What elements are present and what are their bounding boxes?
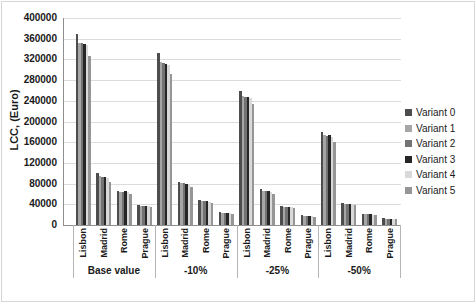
- legend-swatch-variant-1: [405, 125, 412, 132]
- group-label: -50%: [319, 264, 399, 277]
- y-tick-label: 200000: [2, 116, 57, 128]
- legend-item: Variant 5: [405, 183, 455, 199]
- legend-item: Variant 4: [405, 167, 455, 183]
- bar-variant-5-madrid--50%: [354, 205, 357, 225]
- bar-variant-5-rome--10%: [211, 203, 214, 225]
- bar-variant-5-prague--50%: [395, 219, 398, 225]
- gridline: [63, 101, 401, 102]
- gridline: [63, 163, 401, 164]
- x-axis-line: [63, 225, 401, 226]
- gridline: [63, 18, 401, 19]
- bar-variant-5-lisbon-base-value: [88, 56, 91, 225]
- legend-label: Variant 4: [416, 169, 455, 180]
- legend-swatch-variant-2: [405, 140, 412, 147]
- y-tick-label: 0: [2, 219, 57, 231]
- legend-item: Variant 0: [405, 105, 455, 121]
- gridline: [63, 59, 401, 60]
- legend-label: Variant 1: [416, 123, 455, 134]
- y-axis-line: [63, 18, 64, 226]
- lcc-bar-chart: LCC, (Euro) 0400008000012000016000020000…: [0, 0, 476, 303]
- legend-swatch-variant-4: [405, 171, 412, 178]
- legend-label: Variant 5: [416, 185, 455, 196]
- legend-label: Variant 3: [416, 154, 455, 165]
- legend-swatch-variant-5: [405, 187, 412, 194]
- bar-variant-5-madrid--10%: [190, 187, 193, 225]
- y-tick-label: 120000: [2, 157, 57, 169]
- bar-variant-5-lisbon--50%: [333, 142, 336, 225]
- legend-item: Variant 2: [405, 136, 455, 152]
- bar-variant-5-prague--25%: [313, 217, 316, 225]
- y-tick-label: 280000: [2, 74, 57, 86]
- bar-variant-5-lisbon--10%: [170, 74, 173, 225]
- gridline: [63, 39, 401, 40]
- legend: Variant 0Variant 1Variant 2Variant 3Vari…: [405, 105, 455, 198]
- legend-item: Variant 3: [405, 152, 455, 168]
- y-tick-label: 40000: [2, 198, 57, 210]
- bar-variant-5-rome--50%: [374, 215, 377, 225]
- gridline: [63, 184, 401, 185]
- gridline: [63, 122, 401, 123]
- y-tick-label: 320000: [2, 53, 57, 65]
- bar-variant-5-madrid--25%: [272, 194, 275, 225]
- bar-variant-5-lisbon--25%: [252, 104, 255, 225]
- gridline: [63, 142, 401, 143]
- y-tick-label: 360000: [2, 33, 57, 45]
- group-label: Base value: [74, 264, 154, 277]
- legend-item: Variant 1: [405, 121, 455, 137]
- y-tick-label: 400000: [2, 12, 57, 24]
- legend-label: Variant 0: [416, 107, 455, 118]
- bar-variant-5-rome--25%: [293, 208, 296, 225]
- y-tick-label: 160000: [2, 136, 57, 148]
- legend-swatch-variant-3: [405, 156, 412, 163]
- bar-variant-5-rome-base-value: [129, 194, 132, 225]
- bar-variant-5-madrid-base-value: [109, 182, 112, 225]
- bar-variant-5-prague-base-value: [150, 207, 153, 225]
- gridline: [63, 80, 401, 81]
- group-label: -10%: [156, 264, 236, 277]
- y-tick-label: 240000: [2, 95, 57, 107]
- category-separator: [400, 225, 401, 278]
- legend-swatch-variant-0: [405, 109, 412, 116]
- group-label: -25%: [237, 264, 317, 277]
- bar-variant-5-prague--10%: [231, 214, 234, 225]
- y-tick-label: 80000: [2, 178, 57, 190]
- legend-label: Variant 2: [416, 138, 455, 149]
